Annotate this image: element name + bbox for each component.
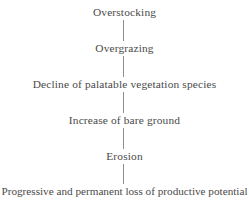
node-decline-palatable-vegetation: Decline of palatable vegetation species bbox=[0, 77, 249, 92]
connector-overgrazing-decline bbox=[123, 55, 124, 78]
node-overgrazing: Overgrazing bbox=[0, 41, 249, 56]
node-loss-productive-potential: Progressive and permanent loss of produc… bbox=[0, 184, 249, 199]
connector-erosion-loss bbox=[123, 163, 124, 185]
connector-decline-bareground bbox=[123, 91, 124, 114]
flow-diagram: Overstocking Overgrazing Decline of pala… bbox=[0, 0, 249, 200]
node-increase-bare-ground: Increase of bare ground bbox=[0, 113, 249, 128]
connector-overstocking-overgrazing bbox=[123, 19, 124, 42]
connector-bareground-erosion bbox=[123, 127, 124, 150]
node-erosion: Erosion bbox=[0, 149, 249, 164]
node-overstocking: Overstocking bbox=[0, 5, 249, 20]
